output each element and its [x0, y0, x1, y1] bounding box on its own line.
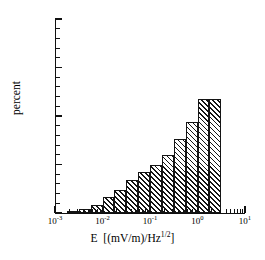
x-axis-tick-label-exponent: 1 [248, 214, 251, 221]
y-axis-tick-minor [56, 57, 60, 58]
x-axis-tick-major [149, 206, 150, 212]
x-axis-tick-minor [226, 209, 227, 212]
x-axis-tick-minor [190, 209, 191, 212]
x-axis-tick-minor [135, 209, 136, 212]
y-axis-tick-major [56, 67, 62, 68]
y-axis-tick-minor [56, 135, 60, 136]
x-axis-tick-minor [131, 209, 132, 212]
x-axis-tick-minor [91, 209, 92, 212]
x-axis-tick-major [102, 206, 103, 212]
y-axis-tick-minor [56, 106, 60, 107]
x-axis-tick-label: 10-2 [95, 216, 110, 226]
x-axis-tick-minor [97, 209, 98, 212]
x-axis-tick-minor [142, 209, 143, 212]
histogram-bar [103, 197, 115, 213]
y-axis-label: percent [10, 58, 22, 138]
x-axis-tick-minor [178, 209, 179, 212]
x-axis-tick-label: 10-1 [143, 216, 158, 226]
x-axis-tick-minor [145, 209, 146, 212]
x-axis-tick-label-base: 10 [48, 216, 57, 226]
y-axis-tick-minor [56, 86, 60, 87]
x-axis-tick-label-base: 10 [143, 216, 152, 226]
y-axis-tick-major [56, 115, 62, 116]
histogram-bar [138, 172, 150, 213]
y-axis-tick-major [56, 18, 62, 19]
x-axis-tick-minor [234, 209, 235, 212]
x-axis-tick-minor [230, 209, 231, 212]
y-axis-tick-minor [56, 203, 60, 204]
x-axis-tick-minor [147, 209, 148, 212]
x-axis-tick-major [197, 206, 198, 212]
x-axis-tick-minor [195, 209, 196, 212]
x-axis-tick-minor [83, 209, 84, 212]
y-axis-tick-minor [56, 183, 60, 184]
x-axis-tick-minor [139, 209, 140, 212]
x-axis-tick-minor [211, 209, 212, 212]
histogram-figure: percent E [(mV/m)/Hz1/2] 025507510010-31… [0, 0, 265, 260]
histogram-bar [186, 122, 198, 213]
x-axis-tick-minor [172, 209, 173, 212]
histogram-bar [79, 209, 91, 213]
x-axis-tick-minor [240, 209, 241, 212]
x-axis-tick-minor [88, 209, 89, 212]
x-axis-tick-minor [95, 209, 96, 212]
x-axis-label-symbol: E [91, 232, 98, 244]
histogram-bar [126, 180, 138, 213]
y-axis-tick-minor [56, 125, 60, 126]
histogram-bar [174, 139, 186, 213]
x-axis-tick-label-exponent: -1 [152, 214, 158, 221]
x-axis-tick-minor [125, 209, 126, 212]
x-axis-tick-major [54, 206, 55, 212]
x-axis-label-bracket-open: [(mV/m)/Hz [103, 232, 160, 244]
y-axis-tick-minor [56, 28, 60, 29]
histogram-bar [150, 165, 162, 214]
y-axis-tick-minor [56, 154, 60, 155]
x-axis-tick-label-base: 10 [191, 216, 200, 226]
x-axis-tick-minor [164, 209, 165, 212]
y-axis-tick-minor [56, 96, 60, 97]
y-axis-tick-minor [56, 193, 60, 194]
y-axis-tick-major [56, 164, 62, 165]
x-axis-tick-major [244, 206, 245, 212]
x-axis-tick-label-exponent: -3 [57, 214, 63, 221]
y-axis-tick-minor [56, 38, 60, 39]
histogram-bar [198, 99, 210, 213]
x-axis-label: E [(mV/m)/Hz1/2] [0, 231, 265, 245]
y-axis-tick-minor [56, 145, 60, 146]
x-axis-tick-label-base: 10 [95, 216, 104, 226]
x-axis-tick-label: 10-3 [48, 216, 63, 226]
x-axis-tick-label: 101 [239, 216, 251, 226]
y-axis-tick-minor [56, 77, 60, 78]
histogram-bar [162, 155, 174, 213]
x-axis-tick-label-exponent: -2 [104, 214, 110, 221]
x-axis-label-bracket-close: ] [171, 232, 175, 244]
x-axis-tick-minor [186, 209, 187, 212]
x-axis-tick-minor [116, 209, 117, 212]
x-axis-tick-minor [237, 209, 238, 212]
x-axis-tick-label-base: 10 [239, 216, 248, 226]
x-axis-tick-label-exponent: 0 [200, 214, 203, 221]
x-axis-tick-minor [183, 209, 184, 212]
x-axis-tick-minor [192, 209, 193, 212]
y-axis-tick-minor [56, 174, 60, 175]
x-axis-tick-minor [242, 209, 243, 212]
x-axis-tick-minor [220, 209, 221, 212]
x-axis-tick-minor [69, 209, 70, 212]
y-axis-tick-minor [56, 48, 60, 49]
x-axis-tick-minor [100, 209, 101, 212]
x-axis-tick-minor [77, 209, 78, 212]
histogram-bar [209, 99, 221, 213]
x-axis-label-exponent: 1/2 [161, 230, 171, 239]
plot-area [55, 19, 245, 213]
x-axis-tick-label: 100 [191, 216, 203, 226]
